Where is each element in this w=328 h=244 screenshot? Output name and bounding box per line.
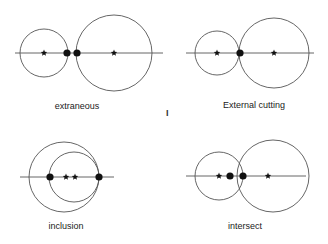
label-intersect: intersect <box>228 221 262 231</box>
contact-point-dot <box>239 172 246 179</box>
label-inclusion: inclusion <box>48 221 83 231</box>
panel-inclusion <box>20 142 114 212</box>
label-external-cutting: External cutting <box>223 100 285 110</box>
center-star-icon <box>271 50 277 56</box>
center-star-icon <box>72 174 78 180</box>
center-star-icon <box>216 173 222 179</box>
label-extraneous: extraneous <box>55 101 100 111</box>
contact-point-dot <box>46 173 53 180</box>
contact-point-dot <box>226 172 233 179</box>
center-star-icon <box>214 50 220 56</box>
center-star-icon <box>111 50 117 56</box>
center-star-icon <box>265 173 271 179</box>
center-star-icon <box>41 50 47 56</box>
center-star-icon <box>63 174 69 180</box>
panel-intersect <box>186 140 309 212</box>
contact-point-dot <box>95 173 102 180</box>
panel-extraneous <box>15 15 163 91</box>
panel-external-cutting <box>186 18 314 88</box>
contact-point-dot <box>236 49 243 56</box>
cursor-marker: I <box>166 108 169 118</box>
contact-point-dot <box>63 49 70 56</box>
circle-relationship-diagram <box>0 0 328 244</box>
contact-point-dot <box>73 49 80 56</box>
